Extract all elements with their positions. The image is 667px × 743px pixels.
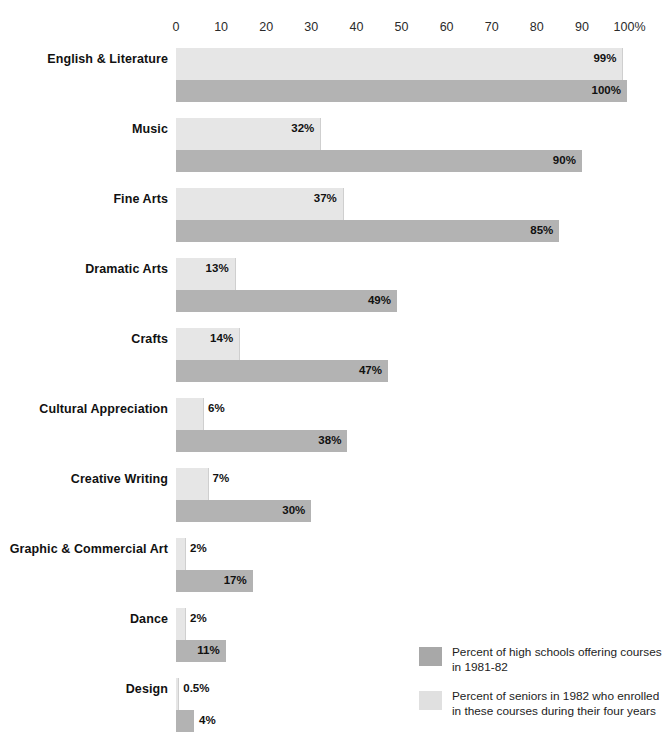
value-label-schools-offering: 30% bbox=[282, 505, 305, 517]
value-label-schools-offering: 17% bbox=[224, 575, 247, 587]
bar-schools-offering[interactable] bbox=[176, 220, 559, 242]
bar-group: English & Literature99%100% bbox=[0, 47, 667, 117]
category-label: Dramatic Arts bbox=[0, 262, 168, 276]
legend-label: Percent of seniors in 1982 who enrolledi… bbox=[452, 689, 667, 718]
value-label-schools-offering: 47% bbox=[359, 365, 382, 377]
bar-schools-offering[interactable] bbox=[176, 360, 388, 382]
legend-label-line2: in 1981-82 bbox=[452, 660, 667, 675]
legend-label-line2: in these courses during their four years bbox=[452, 704, 667, 719]
bar-seniors-enrolled[interactable] bbox=[176, 398, 204, 431]
value-label-schools-offering: 90% bbox=[553, 155, 576, 167]
bar-pair: 13%49% bbox=[176, 257, 627, 313]
x-axis-tick-40: 40 bbox=[349, 20, 363, 34]
bar-schools-offering[interactable] bbox=[176, 710, 194, 732]
value-label-seniors-enrolled: 32% bbox=[291, 123, 314, 135]
bar-pair: 99%100% bbox=[176, 47, 627, 103]
legend-swatch bbox=[419, 647, 442, 666]
value-label-seniors-enrolled: 6% bbox=[208, 403, 225, 415]
category-label: English & Literature bbox=[0, 52, 168, 66]
x-axis-tick-30: 30 bbox=[304, 20, 318, 34]
value-label-seniors-enrolled: 13% bbox=[206, 263, 229, 275]
bar-seniors-enrolled[interactable] bbox=[176, 48, 623, 81]
x-axis-tick-10: 10 bbox=[214, 20, 228, 34]
value-label-seniors-enrolled: 7% bbox=[213, 473, 230, 485]
x-axis-tick-20: 20 bbox=[259, 20, 273, 34]
legend-label-line1: Percent of seniors in 1982 who enrolled bbox=[452, 689, 659, 703]
bar-group: Creative Writing7%30% bbox=[0, 467, 667, 537]
bar-groups: English & Literature99%100%Music32%90%Fi… bbox=[0, 47, 667, 743]
legend-item: Percent of high schools offering courses… bbox=[419, 645, 667, 675]
bar-pair: 14%47% bbox=[176, 327, 627, 383]
category-label: Music bbox=[0, 122, 168, 136]
legend-item: Percent of seniors in 1982 who enrolledi… bbox=[419, 689, 667, 719]
x-axis-tick-labels: 0102030405060708090100% bbox=[176, 20, 627, 36]
bar-seniors-enrolled[interactable] bbox=[176, 468, 209, 501]
value-label-schools-offering: 11% bbox=[197, 645, 219, 657]
legend-label: Percent of high schools offering courses… bbox=[452, 645, 667, 674]
value-label-seniors-enrolled: 2% bbox=[190, 613, 207, 625]
bar-group: Crafts14%47% bbox=[0, 327, 667, 397]
legend-swatch bbox=[419, 691, 442, 710]
bar-group: Fine Arts37%85% bbox=[0, 187, 667, 257]
category-label: Dance bbox=[0, 612, 168, 626]
value-label-schools-offering: 38% bbox=[318, 435, 341, 447]
bar-group: Graphic & Commercial Art2%17% bbox=[0, 537, 667, 607]
horizontal-bar-chart: 0102030405060708090100% English & Litera… bbox=[0, 0, 667, 743]
x-axis-tick-100: 100% bbox=[614, 20, 646, 34]
category-label: Crafts bbox=[0, 332, 168, 346]
x-axis-tick-70: 70 bbox=[485, 20, 499, 34]
value-label-schools-offering: 49% bbox=[368, 295, 391, 307]
bar-pair: 2%17% bbox=[176, 537, 627, 593]
bar-pair: 32%90% bbox=[176, 117, 627, 173]
category-label: Design bbox=[0, 682, 168, 696]
bar-schools-offering[interactable] bbox=[176, 290, 397, 312]
value-label-seniors-enrolled: 99% bbox=[593, 53, 616, 65]
value-label-seniors-enrolled: 0.5% bbox=[183, 683, 209, 695]
bar-group: Cultural Appreciation6%38% bbox=[0, 397, 667, 467]
legend-label-line1: Percent of high schools offering courses bbox=[452, 645, 662, 659]
value-label-seniors-enrolled: 14% bbox=[210, 333, 233, 345]
category-label: Graphic & Commercial Art bbox=[0, 542, 168, 556]
x-axis-tick-60: 60 bbox=[440, 20, 454, 34]
bar-pair: 37%85% bbox=[176, 187, 627, 243]
x-axis-tick-0: 0 bbox=[173, 20, 180, 34]
value-label-schools-offering: 4% bbox=[199, 715, 216, 727]
value-label-seniors-enrolled: 37% bbox=[314, 193, 337, 205]
bar-schools-offering[interactable] bbox=[176, 150, 582, 172]
bar-group: Dramatic Arts13%49% bbox=[0, 257, 667, 327]
value-label-schools-offering: 100% bbox=[592, 85, 621, 97]
category-label: Fine Arts bbox=[0, 192, 168, 206]
x-axis-tick-50: 50 bbox=[395, 20, 409, 34]
bar-seniors-enrolled[interactable] bbox=[176, 538, 186, 571]
category-label: Creative Writing bbox=[0, 472, 168, 486]
category-label: Cultural Appreciation bbox=[0, 402, 168, 416]
bar-schools-offering[interactable] bbox=[176, 80, 627, 102]
bar-pair: 7%30% bbox=[176, 467, 627, 523]
value-label-seniors-enrolled: 2% bbox=[190, 543, 207, 555]
x-axis-tick-90: 90 bbox=[575, 20, 589, 34]
chart-legend: Percent of high schools offering courses… bbox=[419, 645, 667, 733]
bar-pair: 6%38% bbox=[176, 397, 627, 453]
bar-seniors-enrolled[interactable] bbox=[176, 608, 186, 641]
bar-seniors-enrolled[interactable] bbox=[176, 678, 179, 711]
x-axis-tick-80: 80 bbox=[530, 20, 544, 34]
value-label-schools-offering: 85% bbox=[530, 225, 553, 237]
bar-group: Music32%90% bbox=[0, 117, 667, 187]
